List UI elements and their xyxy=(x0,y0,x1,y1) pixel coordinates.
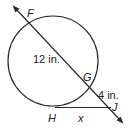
point-label-j: J xyxy=(111,101,118,113)
measure-label-hj: x xyxy=(77,112,84,124)
point-label-f: F xyxy=(27,7,35,19)
measure-label-fg: 12 in. xyxy=(33,53,60,65)
geometry-diagram: F 12 in. G 4 in. J H x xyxy=(0,0,128,130)
point-label-g: G xyxy=(83,71,92,83)
measure-label-gj: 4 in. xyxy=(98,89,119,101)
point-label-h: H xyxy=(48,112,56,124)
